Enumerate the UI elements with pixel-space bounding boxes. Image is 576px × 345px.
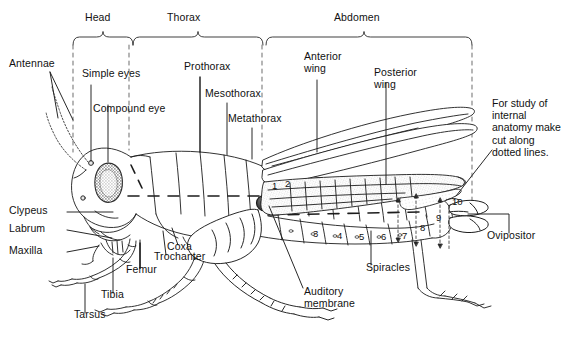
label-maxilla: Maxilla — [9, 245, 42, 257]
segment-number-9: 9 — [436, 212, 441, 223]
label-tarsus: Tarsus — [74, 309, 106, 321]
compound-eye-shape — [95, 163, 123, 202]
label-trochanter: Trochanter — [154, 251, 205, 263]
segment-number-7: 7 — [402, 230, 407, 241]
label-posterior-wing: Posterior wing — [374, 66, 417, 90]
label-auditory-membrane: Auditory membrane — [304, 285, 355, 309]
segment-number-5: 5 — [359, 231, 364, 242]
label-compound-eye: Compound eye — [93, 103, 165, 115]
region-label-abdomen: Abdomen — [334, 12, 380, 24]
label-anterior-wing: Anterior wing — [304, 50, 342, 74]
segment-number-2: 2 — [285, 178, 290, 189]
label-prothorax: Prothorax — [184, 61, 230, 73]
label-simple-eyes: Simple eyes — [82, 68, 140, 80]
region-label-thorax: Thorax — [167, 12, 200, 24]
label-antennae: Antennae — [9, 58, 55, 70]
label-labrum: Labrum — [9, 223, 45, 235]
region-label-head: Head — [85, 12, 111, 24]
label-ovipositor: Ovipositor — [487, 230, 535, 242]
segment-number-3: 3 — [313, 228, 318, 239]
segment-number-6: 6 — [381, 231, 386, 242]
label-clypeus: Clypeus — [9, 205, 48, 217]
segment-number-1: 1 — [272, 180, 277, 191]
segment-number-4: 4 — [337, 230, 342, 241]
label-tibia: Tibia — [101, 289, 124, 301]
label-metathorax: Metathorax — [228, 113, 282, 125]
grasshopper-anatomy-diagram — [0, 0, 576, 345]
internal-anatomy-note: For study of internal anatomy make cut a… — [492, 97, 576, 158]
segment-number-10: 10 — [452, 196, 463, 207]
label-spiracles: Spiracles — [366, 262, 410, 274]
label-femur: Femur — [126, 264, 157, 276]
label-mesothorax: Mesothorax — [205, 88, 261, 100]
segment-number-8: 8 — [420, 222, 425, 233]
